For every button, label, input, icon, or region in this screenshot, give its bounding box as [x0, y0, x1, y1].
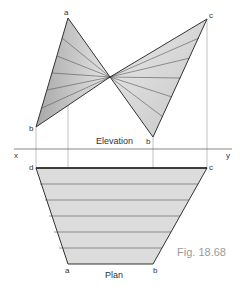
label-y: y: [226, 151, 230, 160]
label-elev-b-right: b: [146, 137, 151, 146]
label-plan-a: a: [65, 266, 70, 275]
elevation-left-triangle: [36, 18, 110, 127]
label-elev-b-left: b: [29, 124, 34, 133]
plan-title: Plan: [105, 270, 123, 280]
diagram-canvas: a c b b Elevation x y d c a b Plan Fig. …: [0, 0, 243, 293]
label-x: x: [14, 151, 18, 160]
label-plan-c: c: [209, 163, 213, 172]
label-plan-b: b: [153, 266, 158, 275]
elevation-title: Elevation: [96, 136, 133, 146]
elevation-right-triangle: [110, 19, 207, 137]
label-plan-d: d: [29, 163, 33, 172]
figure-caption: Fig. 18.68: [177, 246, 226, 258]
label-elev-c: c: [209, 11, 213, 20]
label-elev-a: a: [64, 8, 69, 17]
